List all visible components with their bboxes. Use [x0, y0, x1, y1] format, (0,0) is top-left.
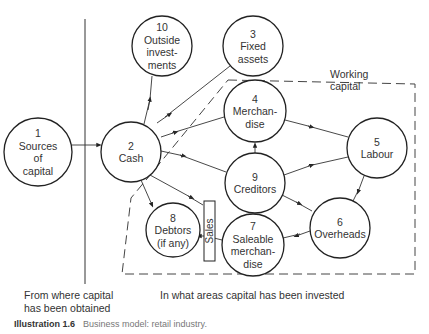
node-label: ments — [148, 59, 177, 71]
node-4: 4Merchan-dise — [224, 80, 286, 142]
node-label: 2 — [128, 140, 134, 152]
sales-box: Sales — [204, 201, 216, 261]
node-label: invest- — [147, 46, 178, 58]
node-label: dise — [245, 118, 264, 130]
node-label: capital — [23, 165, 53, 177]
node-label: 1 — [35, 127, 41, 139]
node-7: 7Saleablemerchan-dise — [222, 214, 284, 276]
node-label: merchan- — [231, 245, 276, 257]
working-capital-label-line2: capital — [330, 80, 360, 92]
node-label: assets — [238, 53, 268, 65]
node-label: Saleable — [233, 233, 274, 245]
node-label: Creditors — [234, 183, 277, 195]
business-model-diagram: Sales Working capital 1Sourcesofcapital2… — [0, 0, 429, 334]
node-label: Cash — [119, 152, 144, 164]
node-label: Labour — [361, 148, 394, 160]
node-8: 8Debtors(if any) — [146, 203, 200, 257]
node-label: 8 — [170, 212, 176, 224]
node-label: 10 — [156, 21, 168, 33]
node-label: Merchan- — [233, 105, 278, 117]
node-label: Overheads — [314, 228, 365, 240]
node-label: dise — [243, 258, 262, 270]
node-10: 10Outsideinvest-ments — [132, 16, 192, 76]
note-left-line1: From where capital — [24, 289, 113, 302]
node-label: Sources — [19, 140, 58, 152]
node-label: (if any) — [157, 237, 189, 249]
node-label: 3 — [250, 28, 256, 40]
node-label: Fixed — [240, 40, 266, 52]
node-3: 3Fixedassets — [223, 16, 283, 76]
node-label: 4 — [252, 93, 258, 105]
node-label: of — [34, 152, 43, 164]
note-right: In what areas capital has been invested — [160, 289, 344, 302]
node-label: 5 — [374, 136, 380, 148]
caption-number: Illustration 1.6 — [14, 319, 75, 329]
node-label: 6 — [337, 216, 343, 228]
note-left: From where capital has been obtained — [24, 289, 113, 315]
node-9: 9Creditors — [225, 153, 285, 213]
sales-label: Sales — [204, 218, 215, 243]
caption-text: Business model: retail industry. — [83, 319, 207, 329]
node-label: Outside — [144, 34, 180, 46]
node-2: 2Cash — [101, 122, 161, 182]
node-label: 7 — [250, 220, 256, 232]
node-6: 6Overheads — [310, 198, 370, 258]
node-label: Debtors — [155, 224, 192, 236]
figure-caption: Illustration 1.6Business model: retail i… — [14, 319, 207, 329]
node-5: 5Labour — [347, 118, 407, 178]
node-1: 1Sourcesofcapital — [4, 118, 72, 186]
note-left-line2: has been obtained — [24, 302, 113, 315]
node-label: 9 — [252, 171, 258, 183]
working-capital-label-line1: Working — [330, 68, 368, 80]
